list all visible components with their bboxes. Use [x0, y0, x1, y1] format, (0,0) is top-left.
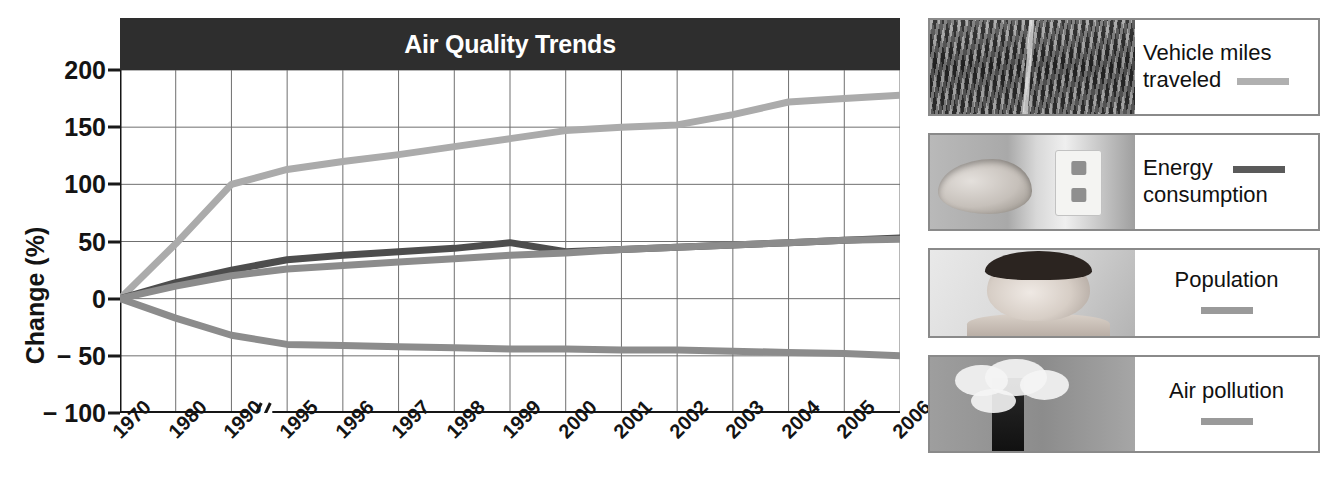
traffic-jam-photo	[930, 20, 1135, 114]
x-tick-label: 2003	[721, 396, 769, 444]
x-tick-label: 1999	[498, 396, 546, 444]
x-tick-label: 1990	[219, 396, 267, 444]
x-tick-label: 1996	[331, 396, 379, 444]
x-tick-label: 2001	[609, 396, 657, 444]
legend-item-energy-consumption[interactable]: Energy consumption	[928, 133, 1320, 231]
legend-label-line2: consumption	[1143, 182, 1310, 209]
legend-swatch-row	[1143, 301, 1310, 319]
legend-item-air-pollution[interactable]: Air pollution	[928, 355, 1320, 453]
legend-swatch-vehicle-miles-traveled	[1237, 78, 1289, 85]
x-tick-label: 1970	[108, 396, 156, 444]
legend-swatch-row	[1143, 412, 1310, 430]
baby-photo	[930, 250, 1135, 336]
x-tick-label: 1998	[442, 396, 490, 444]
chart-panel: Air Quality Trends Change (%) 2001501005…	[0, 0, 905, 481]
x-axis-tick-labels: 1970198019901995199619971998199920002001…	[0, 0, 905, 481]
legend-label-line1: Energy	[1143, 155, 1310, 182]
smokestack-photo	[930, 357, 1135, 451]
legend-label-line1: Population	[1143, 267, 1310, 294]
legend-label-line1: Air pollution	[1143, 378, 1310, 405]
x-tick-label: 2002	[665, 396, 713, 444]
legend-swatch-energy-consumption	[1233, 166, 1285, 173]
legend-item-vehicle-miles-traveled[interactable]: Vehicle miles traveled	[928, 18, 1320, 116]
x-tick-label: 2005	[832, 396, 880, 444]
x-tick-label: 2004	[777, 396, 825, 444]
legend-item-population[interactable]: Population	[928, 248, 1320, 338]
x-tick-label: 2000	[554, 396, 602, 444]
hand-electrical-outlet-photo	[930, 135, 1135, 229]
legend-label-line1: Vehicle miles	[1143, 40, 1310, 67]
legend-label-line2-text: traveled	[1143, 67, 1221, 92]
legend-swatch-air-pollution	[1201, 418, 1253, 425]
legend-swatch-population	[1201, 307, 1253, 314]
x-tick-label: 1980	[164, 396, 212, 444]
legend-label-line1-text: Energy	[1143, 155, 1213, 180]
x-tick-label: 1995	[275, 396, 323, 444]
x-tick-label: 1997	[387, 396, 435, 444]
air-quality-trends-figure: Air Quality Trends Change (%) 2001501005…	[0, 0, 1330, 481]
legend-panel: Vehicle miles traveled Energy	[928, 18, 1324, 463]
legend-label-line2: traveled	[1143, 67, 1310, 94]
